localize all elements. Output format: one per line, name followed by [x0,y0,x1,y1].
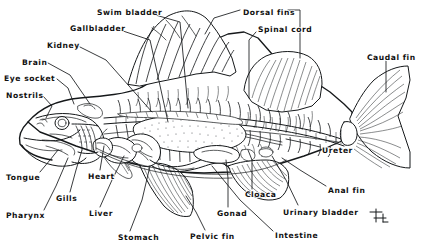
label-gonad: Gonad [217,209,247,218]
label-cloaca: Cloaca [245,190,276,199]
label-gills: Gills [56,194,77,203]
label-eye-socket: Eye socket [4,74,55,83]
signature-monogram-icon [370,209,388,222]
label-anal-fin: Anal fin [328,186,365,195]
label-pelvic-fin: Pelvic fin [190,232,235,241]
label-swim-bladder: Swim bladder [97,8,162,17]
urinary-bladder-organ [259,147,273,157]
label-urinary-bladder: Urinary bladder [283,208,359,217]
label-liver: Liver [89,209,113,218]
label-dorsal-fins: Dorsal fins [243,8,295,17]
leader-tongue [40,150,58,172]
label-stomach: Stomach [118,233,159,242]
leader-gills [70,150,82,192]
label-intestine: Intestine [275,231,318,240]
label-pharynx: Pharynx [6,211,45,220]
label-ureter: Ureter [322,146,353,155]
fish-anatomy-diagram: Swim bladder Gallbladder Kidney Brain Ey… [0,0,421,248]
fish-illustration: Swim bladder Gallbladder Kidney Brain Ey… [0,0,421,248]
label-heart: Heart [88,172,115,181]
label-brain: Brain [22,58,47,67]
label-spinal-cord: Spinal cord [258,25,312,34]
leader-dorsal-fins-b [288,10,300,58]
label-nostrils: Nostrils [6,91,44,100]
label-caudal-fin: Caudal fin [367,53,416,62]
label-kidney: Kidney [47,41,80,50]
label-gallbladder: Gallbladder [70,24,126,33]
label-tongue: Tongue [6,173,40,182]
